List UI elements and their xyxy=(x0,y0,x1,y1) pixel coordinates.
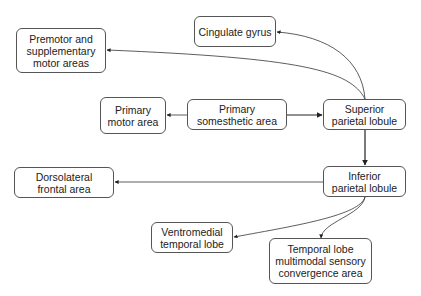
node-primary-motor-area: Primary motor area xyxy=(100,97,166,134)
node-primary-somesthetic-area: Primary somesthetic area xyxy=(187,99,287,130)
node-inferior-parietal-lobule: Inferior parietal lobule xyxy=(323,166,406,197)
edge-superior-parietal-to-cingulate xyxy=(277,32,365,99)
node-dorsolateral-frontal-area: Dorsolateral frontal area xyxy=(14,167,114,198)
node-cingulate-gyrus: Cingulate gyrus xyxy=(194,16,276,47)
edge-inferior-parietal-to-ventromedial-temporal xyxy=(234,197,365,237)
node-premotor-supplementary: Premotor and supplementary motor areas xyxy=(16,28,106,73)
node-ventromedial-temporal-lobe: Ventromedial temporal lobe xyxy=(151,222,233,253)
edge-superior-parietal-to-premotor xyxy=(107,50,365,99)
node-temporal-multimodal-area: Temporal lobe multimodal sensory converg… xyxy=(269,238,372,284)
node-superior-parietal-lobule: Superior parietal lobule xyxy=(323,99,406,130)
